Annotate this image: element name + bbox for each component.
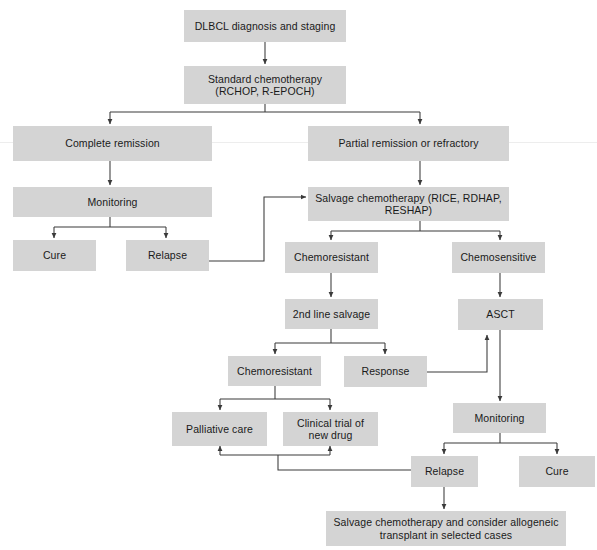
- node-salvage-chemotherapy-line1: Salvage chemotherapy (RICE, RDHAP,: [315, 192, 501, 205]
- node-palliative-care: Palliative care: [172, 412, 267, 446]
- node-allogeneic-transplant-line2: transplant in selected cases: [380, 529, 512, 542]
- node-monitoring-right: Monitoring: [453, 403, 546, 433]
- node-chemoresistant-second: Chemoresistant: [228, 356, 321, 386]
- node-allogeneic-transplant: Salvage chemotherapy and consider alloge…: [326, 511, 566, 546]
- node-standard-chemotherapy-line2: (RCHOP, R-EPOCH): [215, 85, 314, 98]
- node-response: Response: [344, 356, 427, 387]
- flowchart-canvas: DLBCL diagnosis and staging Standard che…: [0, 0, 597, 550]
- node-complete-remission-label: Complete remission: [65, 137, 160, 150]
- node-response-label: Response: [361, 365, 409, 378]
- node-second-line-salvage: 2nd line salvage: [285, 299, 378, 329]
- node-complete-remission: Complete remission: [13, 126, 212, 161]
- node-chemosensitive-label: Chemosensitive: [460, 251, 536, 264]
- node-chemoresistant-first-label: Chemoresistant: [294, 251, 369, 264]
- node-cure-left-label: Cure: [43, 249, 66, 262]
- node-relapse-left-label: Relapse: [148, 249, 187, 262]
- node-relapse-right: Relapse: [411, 456, 478, 487]
- node-chemoresistant-first: Chemoresistant: [285, 242, 378, 273]
- node-salvage-chemotherapy-line2: RESHAP): [385, 204, 432, 217]
- node-partial-remission-label: Partial remission or refractory: [338, 137, 478, 150]
- node-dlbcl-diagnosis: DLBCL diagnosis and staging: [184, 10, 346, 42]
- node-palliative-care-label: Palliative care: [186, 423, 253, 436]
- node-asct-label: ASCT: [486, 308, 514, 321]
- node-monitoring-right-label: Monitoring: [474, 412, 524, 425]
- node-salvage-chemotherapy: Salvage chemotherapy (RICE, RDHAP, RESHA…: [308, 187, 509, 221]
- node-cure-left: Cure: [13, 240, 96, 271]
- node-monitoring-left-label: Monitoring: [87, 196, 137, 209]
- node-clinical-trial: Clinical trial of new drug: [283, 412, 378, 446]
- node-dlbcl-diagnosis-label: DLBCL diagnosis and staging: [195, 20, 336, 33]
- node-second-line-salvage-label: 2nd line salvage: [293, 308, 371, 321]
- node-cure-right: Cure: [519, 456, 595, 487]
- node-standard-chemotherapy: Standard chemotherapy (RCHOP, R-EPOCH): [184, 66, 346, 104]
- node-allogeneic-transplant-line1: Salvage chemotherapy and consider alloge…: [333, 516, 558, 529]
- node-clinical-trial-line1: Clinical trial of: [297, 417, 364, 430]
- node-chemosensitive: Chemosensitive: [452, 242, 545, 273]
- node-asct: ASCT: [458, 299, 543, 330]
- node-clinical-trial-line2: new drug: [309, 429, 353, 442]
- node-standard-chemotherapy-line1: Standard chemotherapy: [208, 73, 322, 86]
- node-partial-remission: Partial remission or refractory: [308, 126, 509, 161]
- node-relapse-right-label: Relapse: [425, 465, 464, 478]
- node-cure-right-label: Cure: [545, 465, 568, 478]
- node-relapse-left: Relapse: [126, 240, 209, 271]
- node-monitoring-left: Monitoring: [13, 187, 212, 217]
- node-chemoresistant-second-label: Chemoresistant: [237, 365, 312, 378]
